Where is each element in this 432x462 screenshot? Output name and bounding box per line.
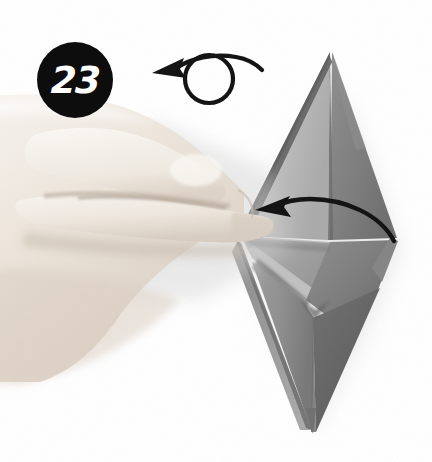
instruction-photo-page: 23 <box>0 0 432 462</box>
step-number-badge: 23 <box>37 42 113 118</box>
hand-knuckle-highlight <box>170 154 222 186</box>
step-number-label: 23 <box>50 62 100 99</box>
